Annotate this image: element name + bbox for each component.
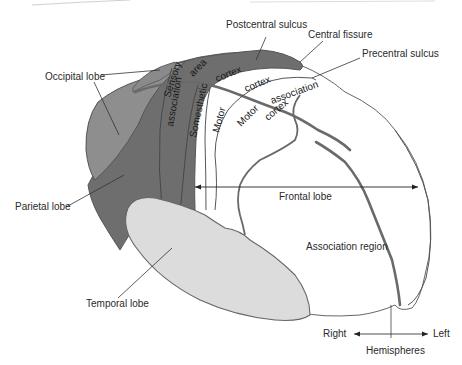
label-precentral-sulcus: Precentral sulcus xyxy=(362,48,439,59)
label-postcentral-sulcus: Postcentral sulcus xyxy=(226,19,307,30)
label-association-region: Association region xyxy=(306,241,388,252)
label-parietal-lobe: Parietal lobe xyxy=(15,201,71,212)
leader-central-fissure xyxy=(300,41,323,62)
label-central-fissure: Central fissure xyxy=(308,29,373,40)
label-right: Right xyxy=(323,328,347,339)
label-left: Left xyxy=(433,328,450,339)
label-occipital-lobe: Occipital lobe xyxy=(45,71,105,82)
scan-artifact xyxy=(32,0,435,5)
label-frontal-lobe: Frontal lobe xyxy=(279,191,332,202)
label-hemispheres: Hemispheres xyxy=(366,345,425,356)
brain-diagram: Postcentral sulcus Central fissure Prece… xyxy=(0,0,462,365)
label-temporal-lobe: Temporal lobe xyxy=(86,298,149,309)
